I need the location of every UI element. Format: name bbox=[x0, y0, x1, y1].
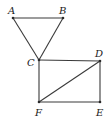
segment-cd bbox=[39, 60, 100, 61]
segment-ac bbox=[13, 18, 39, 60]
label-c: C bbox=[27, 57, 35, 68]
point-e bbox=[99, 101, 102, 104]
label-b: B bbox=[58, 5, 66, 16]
point-b bbox=[62, 17, 65, 20]
segment-fd bbox=[39, 61, 100, 102]
segment-bc bbox=[39, 18, 63, 60]
label-d: D bbox=[94, 48, 103, 59]
point-a bbox=[12, 17, 15, 20]
point-f bbox=[38, 101, 41, 104]
label-e: E bbox=[95, 107, 104, 118]
label-f: F bbox=[34, 107, 43, 118]
label-a: A bbox=[7, 5, 15, 16]
geometry-diagram: A B C D E F bbox=[0, 0, 109, 123]
point-d bbox=[99, 60, 102, 63]
point-c bbox=[38, 59, 41, 62]
